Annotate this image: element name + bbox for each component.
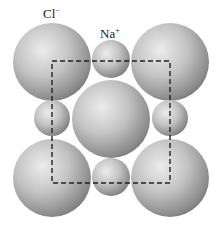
sodium-ion-sphere — [92, 40, 130, 78]
sodium-charge: + — [115, 26, 120, 35]
chloride-symbol: Cl — [43, 6, 55, 21]
chloride-charge: − — [55, 6, 60, 15]
nacl-lattice-diagram: Cl− Na+ — [0, 0, 222, 238]
sodium-label: Na+ — [100, 27, 120, 40]
sodium-symbol: Na — [100, 26, 115, 41]
chloride-ion-sphere — [72, 80, 150, 158]
ion-spheres — [13, 23, 209, 217]
sodium-ion-sphere — [92, 158, 130, 196]
chloride-label: Cl− — [43, 7, 60, 20]
